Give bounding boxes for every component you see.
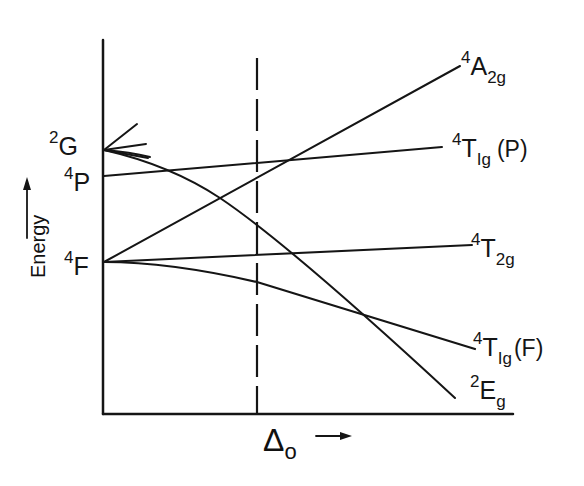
state-sub: 2g [487,68,506,87]
state-4t2g-label: 4T2g [471,236,515,261]
state-base: A [470,52,487,80]
state-sup: 2 [470,372,479,391]
state-base: E [479,376,496,404]
delta-symbol: Δ [263,422,284,458]
y-axis-label: Energy [27,215,50,278]
state-sub: Ig [498,349,512,368]
state-sup: 4 [461,48,470,67]
state-2eg-label: 2Eg [470,378,506,403]
delta-subscript: o [284,439,296,464]
state-sub: 2g [496,250,515,269]
term-base: P [73,168,90,196]
line-4t1g-p [104,147,442,176]
line-4t1g-f [104,262,475,349]
state-sup: 4 [473,329,482,348]
state-sub: g [496,392,505,411]
state-base: T [480,234,495,262]
state-suffix: (P) [497,136,528,162]
x-arrow-icon [340,432,352,440]
state-sup: 4 [452,130,461,149]
term-base: G [58,132,77,160]
term-base: F [73,252,88,280]
state-base: T [461,134,476,162]
line-4a2g [104,66,460,262]
term-sup: 4 [64,164,73,183]
state-4t1g-p-label: 4TIg(P) [452,136,528,161]
y-arrow-icon [23,177,31,190]
state-sub: Ig [477,150,491,169]
state-base: T [482,333,497,361]
term-4p-label: 4P [64,170,90,195]
state-sup: 4 [471,230,480,249]
line-2eg [104,150,455,398]
term-4f-label: 4F [64,254,89,279]
y-axis-label-text: Energy [27,215,49,278]
state-suffix: (F) [514,335,543,361]
term-2g-label: 2G [49,134,78,159]
term-sup: 2 [49,128,58,147]
line-4t2g [104,245,472,262]
state-4a2g-label: 4A2g [461,54,506,79]
x-axis-label: Δo [263,422,297,459]
state-4t1g-f-label: 4TIg(F) [473,335,543,360]
term-sup: 4 [64,248,73,267]
